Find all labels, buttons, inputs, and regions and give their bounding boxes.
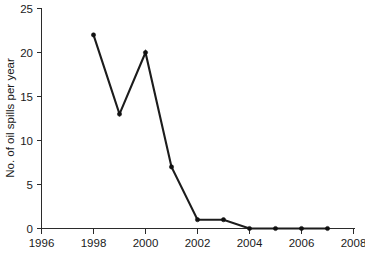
y-tick-labels: 0 5 10 15 20 25 — [20, 3, 33, 235]
data-point — [247, 226, 251, 230]
y-tick-label: 5 — [27, 179, 33, 191]
x-tick-label: 1996 — [29, 237, 55, 249]
data-series-line — [94, 35, 328, 229]
x-tick-label: 1998 — [81, 237, 107, 249]
data-point — [273, 226, 277, 230]
data-point — [299, 226, 303, 230]
data-point — [195, 218, 199, 222]
x-tick-labels: 1996 1998 2000 2002 2004 2006 2008 — [29, 237, 365, 249]
data-series-markers — [91, 33, 329, 231]
y-axis-title: No. of oil spills per year — [4, 58, 16, 178]
x-tick-label: 2006 — [289, 237, 315, 249]
data-point — [117, 112, 121, 116]
x-tick-label: 2002 — [185, 237, 211, 249]
y-tick-label: 10 — [20, 135, 33, 147]
x-tick-label: 2004 — [237, 237, 263, 249]
x-tick-label: 2000 — [133, 237, 159, 249]
oil-spills-line-chart: 0 5 10 15 20 25 1996 1998 2000 2002 2004… — [0, 0, 365, 255]
data-point — [143, 50, 147, 54]
y-tick-marks — [37, 9, 42, 229]
y-tick-label: 25 — [20, 3, 33, 15]
x-tick-label: 2008 — [341, 237, 365, 249]
chart-canvas: 0 5 10 15 20 25 1996 1998 2000 2002 2004… — [0, 0, 365, 255]
y-tick-label: 20 — [20, 47, 33, 59]
data-point — [91, 33, 95, 37]
y-tick-label: 0 — [27, 223, 33, 235]
y-tick-label: 15 — [20, 91, 33, 103]
data-point — [169, 165, 173, 169]
data-point — [221, 218, 225, 222]
data-point — [325, 226, 329, 230]
